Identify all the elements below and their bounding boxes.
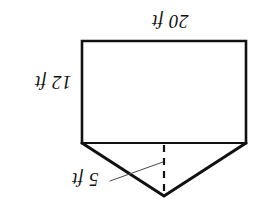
dimension-label-left: 12 ft bbox=[25, 73, 81, 92]
geometry-figure: 20 ft 12 ft 5 ft bbox=[0, 0, 261, 223]
rectangle-outline bbox=[82, 41, 246, 143]
dimension-label-bottom: 5 ft bbox=[59, 170, 111, 189]
dimension-label-top: 20 ft bbox=[141, 12, 199, 31]
figure-canvas bbox=[0, 0, 261, 223]
